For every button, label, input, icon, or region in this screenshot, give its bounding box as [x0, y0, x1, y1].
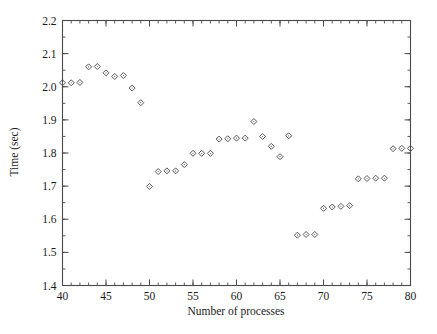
- x-tick-label: 55: [187, 290, 199, 302]
- data-point-center: [262, 136, 263, 137]
- x-tick-label: 45: [100, 290, 112, 302]
- data-point-center: [140, 102, 141, 103]
- data-point-center: [288, 135, 289, 136]
- y-tick-label: 2.1: [42, 48, 57, 60]
- x-tick-label: 80: [405, 290, 417, 302]
- y-axis-label: Time (sec): [8, 127, 21, 176]
- data-point-center: [210, 153, 211, 154]
- data-point-center: [175, 170, 176, 171]
- y-tick-label: 1.7: [42, 180, 57, 192]
- x-axis-tick-labels: 404550556065707580: [57, 290, 417, 302]
- plot-canvas: 404550556065707580 1.41.51.61.71.81.92.0…: [0, 0, 437, 334]
- data-point-center: [184, 164, 185, 165]
- data-point-center: [62, 82, 63, 83]
- y-tick-label: 1.5: [42, 246, 57, 258]
- y-tick-label: 2.0: [42, 81, 57, 93]
- data-point-center: [88, 66, 89, 67]
- y-axis-tick-labels: 1.41.51.61.71.81.92.02.12.2: [42, 15, 57, 292]
- plot-frame-box: [63, 21, 411, 286]
- data-point-center: [166, 170, 167, 171]
- data-point-center: [393, 148, 394, 149]
- data-point-center: [332, 206, 333, 207]
- data-point-center: [192, 153, 193, 154]
- data-point-center: [271, 146, 272, 147]
- scatter-plot-figure: 404550556065707580 1.41.51.61.71.81.92.0…: [0, 0, 437, 334]
- data-point-center: [253, 121, 254, 122]
- data-point-center: [366, 178, 367, 179]
- data-point-center: [349, 205, 350, 206]
- y-tick-label: 1.9: [42, 114, 57, 126]
- y-tick-label: 1.8: [42, 147, 57, 159]
- x-tick-label: 70: [318, 290, 330, 302]
- data-point-center: [79, 82, 80, 83]
- data-point-center: [236, 138, 237, 139]
- data-point-center: [97, 66, 98, 67]
- data-point-center: [219, 139, 220, 140]
- y-tick-label: 1.4: [42, 280, 57, 292]
- data-point-center: [132, 88, 133, 89]
- x-tick-label: 50: [144, 290, 156, 302]
- x-tick-label: 65: [274, 290, 286, 302]
- x-tick-label: 60: [231, 290, 243, 302]
- data-point-center: [306, 234, 307, 235]
- x-axis-label: Number of processes: [187, 305, 285, 318]
- data-point-center: [314, 234, 315, 235]
- x-tick-label: 75: [361, 290, 373, 302]
- data-point-center: [297, 235, 298, 236]
- data-point-center: [375, 178, 376, 179]
- data-point-center: [323, 208, 324, 209]
- data-point-center: [401, 148, 402, 149]
- data-point-center: [358, 178, 359, 179]
- x-tick-label: 40: [57, 290, 69, 302]
- data-point-center: [149, 186, 150, 187]
- data-point-center: [227, 138, 228, 139]
- y-tick-label: 2.2: [42, 15, 57, 27]
- data-point-center: [340, 206, 341, 207]
- data-point-center: [384, 178, 385, 179]
- data-point-center: [201, 153, 202, 154]
- data-point-center: [410, 148, 411, 149]
- data-point-markers: [60, 64, 414, 239]
- major-tick-marks: [63, 21, 411, 286]
- data-point-center: [114, 76, 115, 77]
- data-point-center: [279, 156, 280, 157]
- data-point-center: [105, 72, 106, 73]
- data-point-center: [158, 171, 159, 172]
- minor-tick-marks: [63, 21, 411, 286]
- data-point-center: [71, 82, 72, 83]
- data-point-center: [123, 75, 124, 76]
- data-point-center: [245, 138, 246, 139]
- y-tick-label: 1.6: [42, 213, 57, 225]
